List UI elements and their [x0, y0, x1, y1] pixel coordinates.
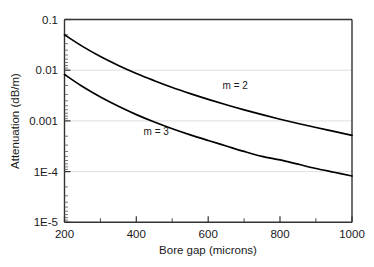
x-tick-label-1: 400 — [127, 228, 146, 240]
series-annotation-m-2: m = 2 — [223, 80, 249, 91]
chart-figure: 0.1 0.01 0.001 1E-4 1E-5 200 400 600 800… — [0, 0, 374, 267]
x-tick-label-2: 600 — [199, 228, 218, 240]
series-annotation-m-3: m = 3 — [144, 126, 170, 137]
y-tick-label-0: 0.1 — [42, 14, 58, 26]
attenuation-vs-bore-gap-chart: 0.1 0.01 0.001 1E-4 1E-5 200 400 600 800… — [0, 0, 374, 267]
y-tick-label-2: 0.001 — [29, 115, 58, 127]
x-tick-label-0: 200 — [55, 228, 74, 240]
x-tick-label-4: 1000 — [339, 228, 365, 240]
y-tick-label-4: 1E-5 — [34, 216, 58, 228]
y-tick-label-3: 1E-4 — [34, 166, 59, 178]
y-tick-label-1: 0.01 — [36, 64, 58, 76]
x-axis-title: Bore gap (microns) — [159, 244, 257, 256]
x-tick-label-3: 800 — [270, 228, 289, 240]
y-axis-title: Attenuation (dB/m) — [9, 73, 21, 169]
